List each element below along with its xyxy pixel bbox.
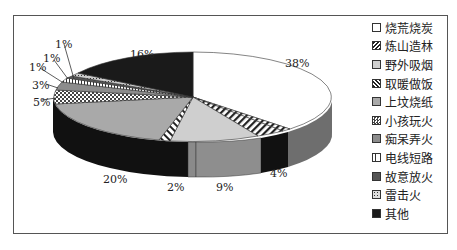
legend-item: 故意放火 — [372, 167, 433, 186]
legend-label: 其他 — [385, 205, 409, 222]
legend-item: 上坟烧纸 — [372, 92, 433, 111]
swatch-icon — [372, 134, 381, 143]
label-1-b: 1% — [43, 52, 60, 65]
legend-label: 小孩玩火 — [385, 112, 433, 129]
swatch-icon — [372, 153, 381, 162]
legend-item: 电线短路 — [372, 148, 433, 167]
legend-label: 上坟烧纸 — [385, 93, 433, 110]
legend-label: 烧荒烧炭 — [385, 19, 433, 36]
legend-item: 取暖做饭 — [372, 74, 433, 93]
legend-label: 取暖做饭 — [385, 75, 433, 92]
legend-label: 电线短路 — [385, 149, 433, 166]
legend-label: 痴呆弄火 — [385, 130, 433, 147]
label-4: 4% — [270, 167, 287, 180]
legend-label: 炼山造林 — [385, 37, 433, 54]
legend-item: 其他 — [372, 204, 433, 223]
legend-label: 野外吸烟 — [385, 56, 433, 73]
legend: 烧荒烧炭 炼山造林 野外吸烟 取暖做饭 上坟烧纸 小孩玩火 痴呆弄火 电线短路 … — [372, 18, 433, 223]
swatch-icon — [372, 60, 381, 69]
swatch-icon — [372, 209, 381, 218]
label-9: 9% — [216, 181, 233, 194]
swatch-icon — [372, 190, 381, 199]
legend-item: 野外吸烟 — [372, 55, 433, 74]
swatch-icon — [372, 79, 381, 88]
label-20: 20% — [103, 173, 127, 186]
label-5: 5% — [33, 96, 50, 109]
legend-item: 雷击火 — [372, 185, 433, 204]
label-38: 38% — [285, 57, 309, 70]
legend-item: 小孩玩火 — [372, 111, 433, 130]
legend-item: 痴呆弄火 — [372, 130, 433, 149]
swatch-icon — [372, 116, 381, 125]
legend-item: 烧荒烧炭 — [372, 18, 433, 37]
label-2: 2% — [167, 181, 184, 194]
swatch-icon — [372, 23, 381, 32]
legend-label: 故意放火 — [385, 168, 433, 185]
legend-label: 雷击火 — [385, 186, 421, 203]
swatch-icon — [372, 97, 381, 106]
label-3: 3% — [32, 79, 49, 92]
label-16: 16% — [130, 48, 154, 61]
swatch-icon — [372, 172, 381, 181]
legend-item: 炼山造林 — [372, 37, 433, 56]
label-1-c: 1% — [55, 38, 72, 51]
swatch-icon — [372, 41, 381, 50]
